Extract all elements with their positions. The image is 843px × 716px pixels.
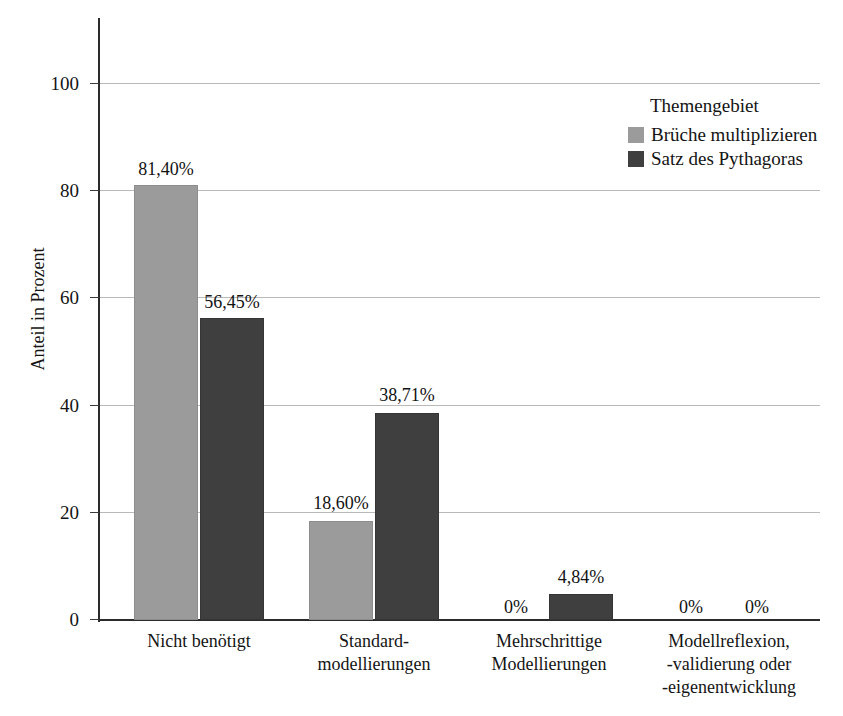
x-category-label-4: Modellreflexion, -validierung oder -eige… [634, 630, 824, 699]
legend: Themengebiet Brüche multiplizieren Satz … [628, 95, 838, 172]
legend-swatch-icon-series1 [628, 127, 644, 143]
y-tick-mark-80 [90, 190, 99, 191]
y-tick-mark-100 [90, 83, 99, 84]
x-category-label-2: Standard- modellierungen [284, 630, 464, 676]
bar-series2-cat3 [549, 594, 613, 620]
x-category-label-1: Nicht benötigt [109, 630, 289, 653]
y-tick-mark-20 [90, 512, 99, 513]
y-tick-mark-0 [90, 619, 99, 620]
y-tick-label-80: 80 [33, 181, 79, 200]
gridline-100 [99, 83, 820, 84]
bar-series2-cat1 [200, 318, 264, 620]
y-tick-label-100: 100 [33, 74, 79, 93]
legend-item-satz-des-pythagoras: Satz des Pythagoras [628, 148, 838, 169]
y-tick-label-0: 0 [33, 610, 79, 629]
y-tick-mark-40 [90, 405, 99, 406]
legend-swatch-icon-series2 [628, 151, 644, 167]
x-category-label-4-line-2: -validierung oder [634, 653, 824, 676]
x-category-label-4-line-3: -eigenentwicklung [634, 676, 824, 699]
x-category-label-3-line-1: Mehrschrittige [459, 630, 639, 653]
x-category-label-3-line-2: Modellierungen [459, 653, 639, 676]
bar-series1-cat1 [134, 185, 198, 620]
y-axis-title: Anteil in Prozent [29, 209, 47, 409]
bar-chart: 100 80 60 40 20 0 Anteil in Prozent 81,4… [0, 0, 843, 716]
y-axis-line [98, 18, 100, 622]
x-category-label-2-line-1: Standard- [284, 630, 464, 653]
x-category-label-4-line-1: Modellreflexion, [634, 630, 824, 653]
bar-series1-cat2 [309, 521, 373, 620]
y-tick-label-20: 20 [33, 503, 79, 522]
bar-series2-cat2 [375, 413, 439, 620]
x-category-label-2-line-2: modellierungen [284, 653, 464, 676]
gridline-80 [99, 190, 820, 191]
bar-value-series2-cat2: 38,71% [357, 386, 457, 404]
bar-value-series2-cat3: 4,84% [531, 568, 631, 586]
legend-item-bruche-multiplizieren: Brüche multiplizieren [628, 124, 838, 145]
y-tick-mark-60 [90, 297, 99, 298]
legend-label-series1: Brüche multiplizieren [651, 124, 817, 145]
bar-value-series1-cat1: 81,40% [116, 160, 216, 178]
legend-label-series2: Satz des Pythagoras [651, 148, 803, 169]
bar-value-series2-cat1: 56,45% [182, 293, 282, 311]
legend-title: Themengebiet [650, 95, 838, 117]
x-category-label-1-line-1: Nicht benötigt [109, 630, 289, 653]
bar-value-series2-cat4: 0% [707, 598, 807, 616]
x-category-label-3: Mehrschrittige Modellierungen [459, 630, 639, 676]
